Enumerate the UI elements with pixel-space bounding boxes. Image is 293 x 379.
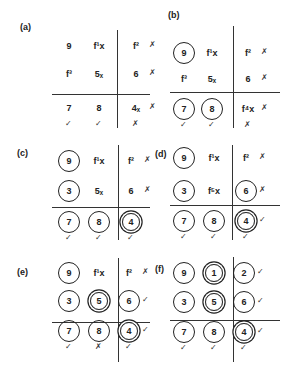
double-circled-cell: 4 [122,213,140,231]
double-circled-cell: 5 [205,293,223,311]
crossed-check-icon: ✗ [261,74,268,82]
cell-value: f¹x [203,147,225,169]
circled-cell: 2 [233,262,255,284]
circled-cell: 3 [173,291,195,313]
panel-c: (c)9f¹xf²✗35ₓ6✗7✓8✓4✓ [0,125,140,240]
check-icon: ✓ [127,234,134,242]
vertical-divider [233,26,234,128]
circled-cell: 3 [58,290,80,312]
circled-cell: 9 [173,147,195,169]
check-icon: ✓ [259,216,266,224]
cell-value: 5ₓ [88,63,110,85]
panel-label: (d) [155,149,167,159]
check-icon: ✓ [180,233,187,241]
circled-cell: 8 [203,321,225,343]
horizontal-divider [52,207,150,208]
cell-value: f⁵x [203,180,225,202]
cell-value: f¹x [88,262,110,284]
check-icon: ✓ [210,233,217,241]
cell-value: 5ₓ [88,180,110,202]
cell-value: 4ₓ [125,97,147,119]
circled-cell: 8 [201,98,223,120]
check-icon: ✓ [257,327,264,335]
cell-value: 7 [58,97,80,119]
check-icon: ✓ [257,297,264,305]
cell-value: 8 [88,97,110,119]
double-circled-cell: 5 [90,292,108,310]
double-circled-cell: 4 [235,323,253,341]
cell-value: f³ [173,68,195,90]
check-icon: ✓ [242,233,249,241]
cell-value: f² [237,42,259,64]
cell-value: f³ [58,63,80,85]
crossed-check-icon: ✗ [261,104,268,112]
cell-value: f⁴x [237,98,259,120]
cell-value: f² [125,35,147,57]
circled-cell: 6 [118,290,140,312]
panel-e: (e)9f¹xf²✗356✓7✓8✗4✓✓ [0,250,140,365]
panel-label: (c) [17,148,28,158]
cell-value: 5ₓ [201,68,223,90]
circled-cell: 9 [173,262,195,284]
panel-label: (a) [20,22,31,32]
cell-value: f² [235,147,257,169]
circled-cell: 9 [58,150,80,172]
cell-value: 6 [237,68,259,90]
cell-value: f¹x [201,42,223,64]
circled-cell: 9 [173,42,195,64]
double-circled-cell: 4 [237,212,255,230]
circled-cell: 3 [173,180,195,202]
check-icon: ✓ [125,343,132,351]
cell-value: 6 [120,180,142,202]
circled-cell: 7 [173,98,195,120]
cell-value: f² [118,262,140,284]
crossed-check-icon: ✗ [259,186,266,194]
cell-value: f¹x [88,35,110,57]
circled-cell: 7 [58,211,80,233]
check-icon: ✓ [65,343,72,351]
check-icon: ✓ [210,344,217,352]
crossed-check-icon: ✗ [259,153,266,161]
double-circled-cell: 1 [205,264,223,282]
circled-cell: 7 [58,320,80,342]
vertical-divider [232,145,233,240]
check-icon: ✓ [257,268,264,276]
check-icon: ✓ [240,344,247,352]
panel-a: (a)9f¹xf²✗f³5ₓ6✗7✓8✓4ₓ✗✗ [0,0,140,115]
crossed-check-icon: ✗ [95,343,102,351]
panel-f: (f)912✓356✓7✓8✓4✓✓ [145,250,285,365]
panel-label: (e) [17,267,28,277]
circled-cell: 6 [233,291,255,313]
cell-value: f² [120,150,142,172]
horizontal-divider [52,94,150,95]
circled-cell: 3 [58,180,80,202]
circled-cell: 8 [88,211,110,233]
circled-cell: 7 [173,210,195,232]
cell-value: 9 [58,35,80,57]
circled-cell: 9 [58,262,80,284]
horizontal-divider [170,92,280,93]
check-icon: ✓ [95,234,102,242]
circled-cell: 8 [203,210,225,232]
circled-cell: 7 [173,321,195,343]
panel-label: (b) [168,10,180,20]
vertical-divider [117,30,118,128]
double-circled-cell: 4 [120,322,138,340]
check-icon: ✓ [180,344,187,352]
circled-cell: 6 [235,180,257,202]
circled-cell: 8 [88,320,110,342]
horizontal-divider [170,205,280,206]
panel-d: (d)9f¹xf²✗3f⁵x6✗7✓8✓4✓✓ [145,125,285,240]
cell-value: f¹x [88,150,110,172]
panel-b: (b)9f¹xf²✗f³5ₓ6✗7✓8✓f⁴x✗✗ [145,0,285,115]
crossed-check-icon: ✗ [261,48,268,56]
check-icon: ✓ [65,234,72,242]
cell-value: 6 [125,63,147,85]
panel-label: (f) [155,264,164,274]
